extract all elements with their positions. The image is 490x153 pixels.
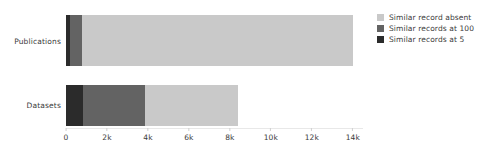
x-axis-tick-label: 14k bbox=[346, 133, 360, 142]
bar-segment-similar-records-at-100[interactable] bbox=[70, 15, 82, 66]
x-axis-ticks: 02k4k6k8k10k12k14k bbox=[0, 128, 490, 148]
stacked-bar-chart: Publications Datasets 02k4k6k8k10k12k14k… bbox=[0, 0, 490, 153]
tick-mark bbox=[147, 128, 148, 131]
x-axis-tick-label: 12k bbox=[305, 133, 319, 142]
y-axis-label-datasets: Datasets bbox=[0, 101, 61, 110]
x-axis-tick: 2k bbox=[102, 128, 111, 142]
legend-item-similar-records-at-100[interactable]: Similar records at 100 bbox=[377, 24, 474, 33]
x-axis-tick-label: 8k bbox=[225, 133, 234, 142]
x-axis-tick: 8k bbox=[225, 128, 234, 142]
legend-item-label: Similar record absent bbox=[389, 13, 471, 22]
x-axis-tick-label: 10k bbox=[264, 133, 278, 142]
legend: Similar record absent Similar records at… bbox=[377, 13, 474, 44]
tick-mark bbox=[106, 128, 107, 131]
y-axis-label-publications: Publications bbox=[0, 37, 61, 46]
x-axis-tick: 10k bbox=[264, 128, 278, 142]
legend-swatch-icon bbox=[377, 14, 384, 21]
tick-mark bbox=[270, 128, 271, 131]
tick-mark bbox=[352, 128, 353, 131]
x-axis-tick: 4k bbox=[143, 128, 152, 142]
x-axis-tick: 14k bbox=[346, 128, 360, 142]
x-axis-tick-label: 6k bbox=[184, 133, 193, 142]
bar-segment-similar-records-at-5[interactable] bbox=[66, 85, 83, 126]
bar-segment-similar-record-absent[interactable] bbox=[145, 85, 238, 126]
bar-segment-similar-records-at-100[interactable] bbox=[83, 85, 145, 126]
tick-mark bbox=[188, 128, 189, 131]
x-axis-tick: 0 bbox=[64, 128, 69, 142]
tick-mark bbox=[66, 128, 67, 131]
legend-item-similar-record-absent[interactable]: Similar record absent bbox=[377, 13, 474, 22]
x-axis-tick-label: 0 bbox=[64, 133, 69, 142]
legend-item-label: Similar records at 5 bbox=[389, 35, 464, 44]
bar-segment-similar-record-absent[interactable] bbox=[82, 15, 353, 66]
tick-mark bbox=[229, 128, 230, 131]
legend-item-similar-records-at-5[interactable]: Similar records at 5 bbox=[377, 35, 474, 44]
bar-row-publications[interactable] bbox=[66, 15, 353, 66]
legend-swatch-icon bbox=[377, 36, 384, 43]
x-axis-tick: 12k bbox=[305, 128, 319, 142]
tick-mark bbox=[311, 128, 312, 131]
x-axis-tick-label: 4k bbox=[143, 133, 152, 142]
x-axis-tick-label: 2k bbox=[102, 133, 111, 142]
plot-area bbox=[66, 8, 363, 128]
legend-item-label: Similar records at 100 bbox=[389, 24, 474, 33]
legend-swatch-icon bbox=[377, 25, 384, 32]
bar-row-datasets[interactable] bbox=[66, 85, 238, 126]
x-axis-tick: 6k bbox=[184, 128, 193, 142]
